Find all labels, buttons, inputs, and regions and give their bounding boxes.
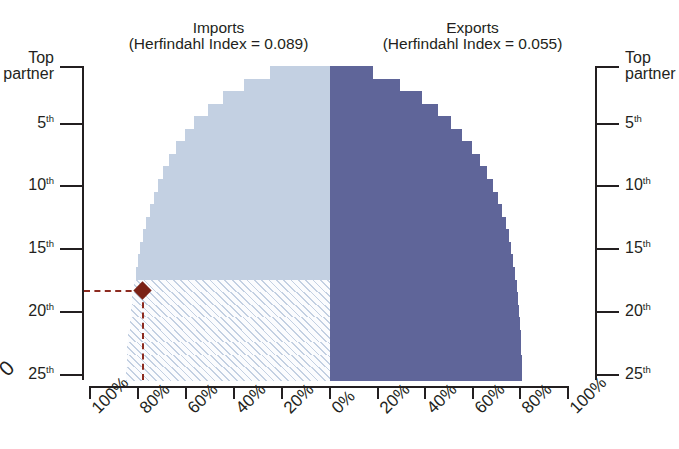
exports-bar-17 bbox=[330, 267, 515, 280]
exports-bar-4 bbox=[330, 104, 438, 117]
imports-bar-1 bbox=[270, 66, 330, 79]
chart-titles: Imports (Herfindahl Index = 0.089) Expor… bbox=[0, 20, 679, 62]
exports-title-sub: (Herfindahl Index = 0.055) bbox=[350, 36, 595, 52]
x-tick-L0 bbox=[89, 386, 91, 399]
x-tick-L2 bbox=[185, 386, 187, 399]
x-tick-L5 bbox=[329, 386, 331, 399]
imports-bar-18 bbox=[134, 280, 330, 293]
y-axis-right-spine bbox=[595, 66, 597, 380]
exports-bar-5 bbox=[330, 116, 451, 129]
y-tick-10 bbox=[595, 185, 619, 187]
imports-bar-12 bbox=[150, 204, 330, 217]
y-tick-5 bbox=[60, 123, 84, 125]
exports-bar-7 bbox=[330, 141, 472, 154]
y-tick-label-20: 20th bbox=[625, 302, 651, 319]
x-tick-R4 bbox=[519, 386, 521, 399]
y-tick-label-25: 25th bbox=[625, 365, 651, 382]
exports-bar-21 bbox=[330, 317, 520, 330]
x-tick-R3 bbox=[472, 386, 474, 399]
imports-bar-23 bbox=[127, 342, 330, 355]
exports-bar-18 bbox=[330, 280, 517, 293]
clipped-top-text bbox=[150, 0, 570, 9]
exports-bar-16 bbox=[330, 254, 513, 267]
y-axis-right: Toppartner5th10th15th20th25th bbox=[595, 66, 619, 380]
exports-bar-9 bbox=[330, 166, 487, 179]
y-tick-label-10: 10th bbox=[625, 176, 651, 193]
y-tick-label-20: 20th bbox=[28, 302, 54, 319]
y-axis-left-spine bbox=[82, 66, 84, 380]
imports-title-main: Imports bbox=[106, 20, 331, 36]
imports-bar-8 bbox=[169, 154, 330, 167]
exports-bar-23 bbox=[330, 342, 521, 355]
y-tick-20 bbox=[595, 311, 619, 313]
y-axis-left: Toppartner5th10th15th20th25th bbox=[60, 66, 84, 380]
imports-bar-16 bbox=[138, 254, 330, 267]
x-tick-L3 bbox=[233, 386, 235, 399]
annotation-vertical-dashed-line bbox=[142, 292, 144, 380]
imports-bar-9 bbox=[163, 166, 330, 179]
y-tick-15 bbox=[60, 248, 84, 250]
exports-bars bbox=[330, 66, 568, 380]
exports-bar-20 bbox=[330, 305, 519, 318]
exports-bar-13 bbox=[330, 217, 506, 230]
exports-bar-25 bbox=[330, 367, 522, 380]
exports-bar-8 bbox=[330, 154, 480, 167]
y-tick-label-15: 15th bbox=[625, 239, 651, 256]
x-tick-R5 bbox=[567, 386, 569, 399]
y-tick-label-1: Toppartner bbox=[3, 50, 54, 82]
y-tick-1 bbox=[60, 66, 84, 68]
x-tick-L1 bbox=[137, 386, 139, 399]
exports-bar-11 bbox=[330, 192, 498, 205]
imports-title: Imports (Herfindahl Index = 0.089) bbox=[106, 20, 331, 53]
x-tick-label-R5: 100% bbox=[566, 373, 611, 418]
y-tick-1 bbox=[595, 66, 619, 68]
y-tick-20 bbox=[60, 311, 84, 313]
imports-bar-25 bbox=[126, 367, 330, 380]
y-tick-label-10: 10th bbox=[28, 176, 54, 193]
y-tick-label-1: Toppartner bbox=[625, 50, 676, 82]
exports-bar-2 bbox=[330, 79, 400, 92]
imports-bar-24 bbox=[127, 355, 330, 368]
imports-bar-14 bbox=[143, 229, 330, 242]
y-tick-25 bbox=[60, 374, 84, 376]
y-tick-15 bbox=[595, 248, 619, 250]
exports-bar-15 bbox=[330, 242, 511, 255]
imports-bar-21 bbox=[130, 317, 330, 330]
y-tick-label-25: 25th bbox=[28, 365, 54, 382]
imports-bar-20 bbox=[131, 305, 330, 318]
imports-bar-2 bbox=[244, 79, 330, 92]
exports-title: Exports (Herfindahl Index = 0.055) bbox=[350, 20, 595, 53]
imports-bar-11 bbox=[154, 192, 330, 205]
imports-bar-17 bbox=[136, 267, 330, 280]
exports-bar-12 bbox=[330, 204, 502, 217]
exports-bar-19 bbox=[330, 292, 518, 305]
y-tick-label-5: 5th bbox=[37, 114, 54, 131]
x-tick-label-L5: 0% bbox=[328, 387, 360, 419]
y-tick-label-5: 5th bbox=[625, 114, 642, 131]
exports-bar-1 bbox=[330, 66, 373, 79]
y-tick-5 bbox=[595, 123, 619, 125]
plot-area bbox=[90, 66, 568, 380]
imports-bars bbox=[90, 66, 330, 380]
clipped-left-axis-label: 0 bbox=[0, 356, 19, 381]
imports-bar-3 bbox=[223, 91, 330, 104]
imports-bar-7 bbox=[176, 141, 330, 154]
imports-bar-15 bbox=[140, 242, 330, 255]
y-tick-label-15: 15th bbox=[28, 239, 54, 256]
exports-bar-14 bbox=[330, 229, 509, 242]
x-tick-R1 bbox=[377, 386, 379, 399]
imports-title-sub: (Herfindahl Index = 0.089) bbox=[106, 36, 331, 52]
x-tick-L4 bbox=[281, 386, 283, 399]
exports-bar-6 bbox=[330, 129, 462, 142]
exports-bar-24 bbox=[330, 355, 522, 368]
imports-bar-5 bbox=[194, 116, 330, 129]
imports-bar-10 bbox=[158, 179, 330, 192]
imports-bar-19 bbox=[132, 292, 330, 305]
y-tick-10 bbox=[60, 185, 84, 187]
exports-bar-10 bbox=[330, 179, 493, 192]
imports-bar-4 bbox=[208, 104, 330, 117]
exports-bar-3 bbox=[330, 91, 422, 104]
imports-bar-22 bbox=[128, 330, 330, 343]
x-tick-R2 bbox=[424, 386, 426, 399]
exports-bar-22 bbox=[330, 330, 521, 343]
